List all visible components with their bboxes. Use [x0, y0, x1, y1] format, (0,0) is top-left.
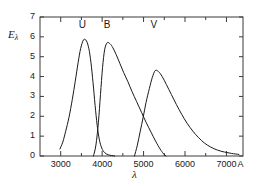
- x-axis-tick-label: 3000: [41, 159, 81, 169]
- y-axis-title: Eλ: [8, 28, 18, 42]
- x-axis-tick-label: 5000: [124, 159, 164, 169]
- x-axis-tick-label: 6000: [165, 159, 205, 169]
- y-axis-tick-label: 3: [21, 90, 35, 100]
- y-axis-tick-label: 4: [21, 71, 35, 81]
- y-axis-tick-label: 0: [21, 150, 35, 160]
- y-axis-title-subscript: λ: [15, 33, 18, 42]
- y-axis-tick-label: 6: [21, 31, 35, 41]
- curve-label-u: U: [74, 19, 90, 30]
- x-axis-tick-label: 4000: [82, 159, 122, 169]
- plot-frame: [40, 17, 243, 156]
- x-axis-title: λ: [132, 168, 137, 180]
- y-axis-tick-label: 7: [21, 11, 35, 21]
- y-axis-tick-label: 1: [21, 130, 35, 140]
- y-axis-tick-label: 2: [21, 110, 35, 120]
- y-axis-title-base: E: [8, 28, 15, 40]
- curve-label-v: V: [146, 19, 162, 30]
- y-axis-tick-label: 5: [21, 51, 35, 61]
- x-axis-unit-label: A: [237, 159, 243, 169]
- curve-label-b: B: [99, 19, 115, 30]
- chart-figure: Eλ λ 0123456730004000500060007000AUBV: [0, 0, 262, 187]
